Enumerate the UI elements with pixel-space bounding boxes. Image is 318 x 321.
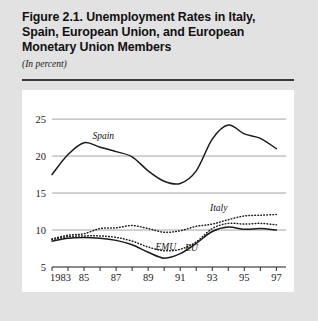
- x-tick-label: 87: [111, 272, 122, 283]
- figure-title-block: Figure 2.1. Unemployment Rates in Italy,…: [22, 10, 294, 69]
- y-tick-label: 10: [36, 225, 47, 236]
- series-label-eu: EU: [184, 243, 199, 253]
- x-tick-label: 85: [79, 272, 90, 283]
- x-tick-label: 95: [239, 272, 250, 283]
- figure-container: Figure 2.1. Unemployment Rates in Italy,…: [0, 0, 318, 321]
- y-tick-label: 15: [36, 188, 47, 199]
- y-tick-label: 5: [41, 262, 46, 273]
- x-tick-label: 91: [175, 272, 186, 283]
- series-label-italy: Italy: [209, 203, 228, 213]
- y-tick-label: 20: [36, 151, 47, 162]
- x-tick-label: 93: [207, 272, 218, 283]
- figure-title-line-3: Monetary Union Members: [22, 40, 171, 54]
- series-line-italy: [52, 214, 276, 238]
- series-label-emu: EMU: [155, 242, 178, 252]
- series-label-spain: Spain: [92, 131, 114, 141]
- line-chart: 510152025198385878991939597SpainItalyEMU…: [22, 90, 294, 292]
- figure-title: Figure 2.1. Unemployment Rates in Italy,…: [22, 10, 294, 56]
- chart-panel: 510152025198385878991939597SpainItalyEMU…: [22, 90, 294, 292]
- figure-subtitle: (In percent): [22, 59, 294, 69]
- series-line-spain: [52, 125, 276, 184]
- y-tick-label: 25: [36, 114, 47, 125]
- title-divider-rule: [22, 79, 294, 81]
- x-tick-label: 89: [143, 272, 154, 283]
- x-tick-label: 97: [271, 272, 282, 283]
- figure-title-line-1: Figure 2.1. Unemployment Rates in Italy,: [22, 10, 255, 24]
- x-tick-label: 1983: [50, 272, 71, 283]
- figure-title-line-2: Spain, European Union, and European: [22, 25, 244, 39]
